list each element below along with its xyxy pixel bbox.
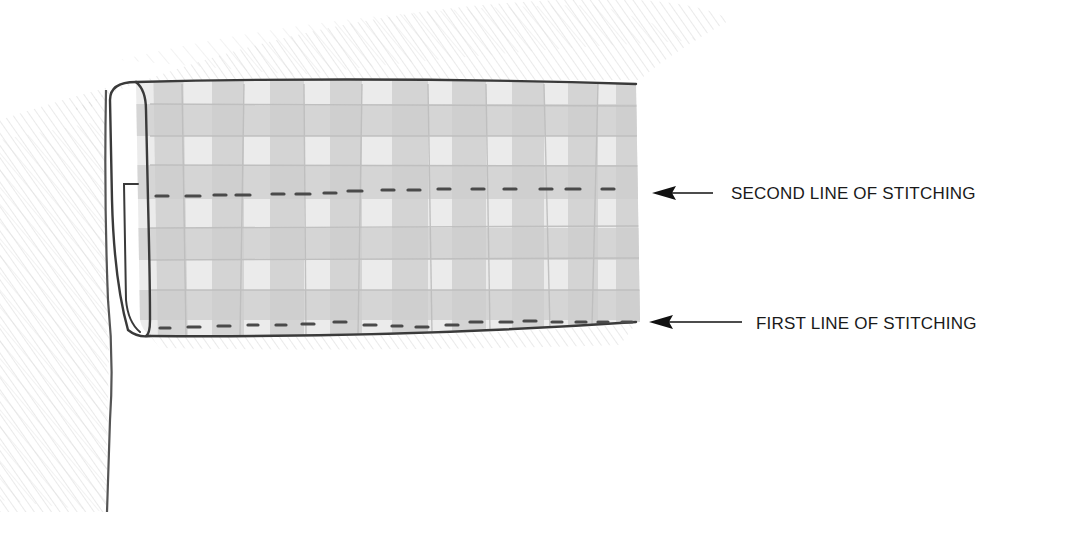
left-arrow-icon — [649, 315, 742, 329]
illustration — [0, 0, 1087, 541]
gingham-fabric — [120, 70, 660, 350]
first-line-of-stitching-label: FIRST LINE OF STITCHING — [756, 315, 977, 332]
stitching-diagram: SECOND LINE OF STITCHING FIRST LINE OF S… — [0, 0, 1087, 541]
second-line-of-stitching-label: SECOND LINE OF STITCHING — [731, 185, 976, 202]
left-arrow-icon — [652, 186, 713, 200]
